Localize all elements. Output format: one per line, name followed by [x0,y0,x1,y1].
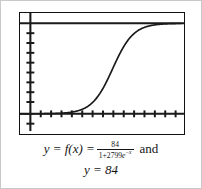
logistic-curve [20,23,181,113]
caption-conjunction: and [140,141,159,156]
figure-container: y = f(x) =841+2799e−xand y = 84 [0,0,202,189]
figure-caption: y = f(x) =841+2799e−xand y = 84 [1,141,201,177]
caption-function-label: y = f(x) = [44,141,95,156]
caption-line-2: y = 84 [1,163,201,177]
caption-line-1: y = f(x) =841+2799e−xand [1,141,201,160]
logistic-graph-plot [20,13,184,134]
graph-frame [19,12,185,135]
denominator-coefficient: 1+2799 [99,150,122,159]
caption-fraction: 841+2799e−x [97,141,134,160]
fraction-denominator: 1+2799e−x [97,149,134,160]
fraction-numerator: 84 [97,141,134,149]
denominator-exponent: −x [125,149,131,155]
